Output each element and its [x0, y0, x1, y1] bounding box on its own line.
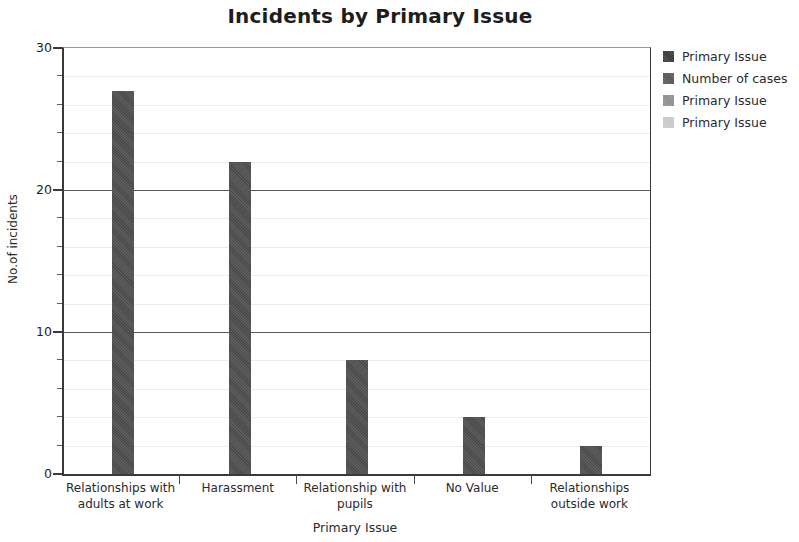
- x-axis-tick-label-line: Relationships with: [62, 480, 180, 496]
- gridline-minor: [64, 133, 650, 134]
- bar-chart: Incidents by Primary Issue 0102030 No.of…: [0, 0, 799, 542]
- gridline-minor: [64, 162, 650, 163]
- bar[interactable]: [580, 446, 602, 474]
- x-axis-title: Primary Issue: [62, 520, 648, 535]
- gridline-minor: [64, 304, 650, 305]
- x-axis-tick-label: No Value: [413, 480, 531, 496]
- x-axis-tick-label-line: Relationship with: [296, 480, 414, 496]
- bar[interactable]: [229, 162, 251, 474]
- legend-swatch-icon: [663, 117, 674, 128]
- x-axis-tick-label-line: Harassment: [179, 480, 297, 496]
- x-axis-tick-label-line: Relationships: [530, 480, 648, 496]
- legend-item[interactable]: Number of cases: [663, 67, 797, 89]
- x-axis-tick-label-line: outside work: [530, 496, 648, 512]
- legend-item[interactable]: Primary Issue: [663, 45, 797, 67]
- legend-item[interactable]: Primary Issue: [663, 89, 797, 111]
- gridline-minor: [64, 76, 650, 77]
- x-axis-tick-label: Relationships withadults at work: [62, 480, 180, 512]
- x-axis-tick-label: Relationship withpupils: [296, 480, 414, 512]
- legend-swatch-icon: [663, 95, 674, 106]
- gridline-major: [64, 190, 650, 191]
- gridline-major: [64, 332, 650, 333]
- x-axis-tick-label: Relationshipsoutside work: [530, 480, 648, 512]
- y-axis-tick-label: 0: [12, 466, 52, 481]
- legend-label: Number of cases: [682, 71, 787, 86]
- legend-label: Primary Issue: [682, 49, 767, 64]
- y-axis-title: No.of incidents: [6, 174, 20, 304]
- legend-item[interactable]: Primary Issue: [663, 111, 797, 133]
- y-axis-tick-label: 10: [12, 324, 52, 339]
- y-axis-tick-major: [53, 473, 62, 475]
- x-axis-tick-label: Harassment: [179, 480, 297, 496]
- plot-area: [62, 47, 651, 476]
- legend-label: Primary Issue: [682, 93, 767, 108]
- legend-label: Primary Issue: [682, 115, 767, 130]
- gridline-minor: [64, 105, 650, 106]
- legend-swatch-icon: [663, 51, 674, 62]
- y-axis-tick-label: 30: [12, 40, 52, 55]
- bar[interactable]: [112, 91, 134, 474]
- bar[interactable]: [463, 417, 485, 474]
- x-axis-tick-label-line: No Value: [413, 480, 531, 496]
- legend-swatch-icon: [663, 73, 674, 84]
- gridline-minor: [64, 247, 650, 248]
- x-axis-tick-label-line: pupils: [296, 496, 414, 512]
- chart-title: Incidents by Primary Issue: [0, 4, 760, 28]
- chart-legend: Primary IssueNumber of casesPrimary Issu…: [663, 45, 797, 133]
- x-axis-tick-label-line: adults at work: [62, 496, 180, 512]
- gridline-minor: [64, 218, 650, 219]
- gridline-minor: [64, 275, 650, 276]
- bar[interactable]: [346, 360, 368, 474]
